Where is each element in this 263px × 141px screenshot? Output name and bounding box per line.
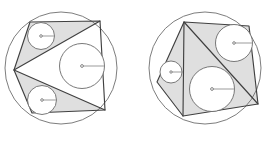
geometry-figure bbox=[0, 0, 263, 141]
right-panel bbox=[149, 12, 261, 124]
left-incircle-lower-center bbox=[41, 99, 44, 102]
right-incircle-top-group bbox=[216, 25, 253, 62]
left-incircle-center-group bbox=[60, 44, 105, 89]
right-incircle-bottom-group bbox=[190, 67, 235, 112]
right-incircle-bottom-center bbox=[211, 88, 214, 91]
right-incircle-left-group bbox=[160, 61, 182, 83]
right-incircle-left-small-center bbox=[170, 71, 172, 73]
left-panel bbox=[5, 12, 117, 124]
left-incircle-upper-center bbox=[40, 35, 43, 38]
right-incircle-top-right-center bbox=[233, 42, 236, 45]
left-incircle-center-center bbox=[81, 65, 84, 68]
left-incircle-upper-group bbox=[28, 23, 55, 50]
left-incircle-lower-group bbox=[28, 86, 57, 115]
